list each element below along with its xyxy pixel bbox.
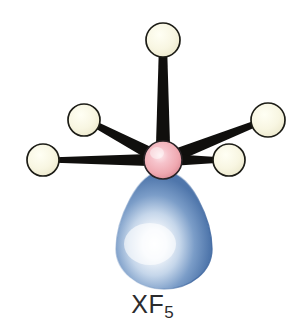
central-atom bbox=[144, 141, 182, 179]
formula-label: XF5 bbox=[0, 292, 305, 321]
central-atom-sphere bbox=[144, 141, 182, 179]
formula-base: XF bbox=[131, 290, 164, 318]
central-atom-highlight bbox=[150, 147, 164, 159]
outer-atom-lower-left bbox=[27, 144, 59, 176]
molecule-illustration bbox=[0, 0, 305, 335]
formula-subscript: 5 bbox=[164, 303, 173, 322]
outer-atom-sphere bbox=[251, 103, 285, 137]
outer-atom-upper-left bbox=[68, 104, 100, 136]
outer-atom-top bbox=[146, 23, 180, 57]
outer-atom-sphere bbox=[27, 144, 59, 176]
lone-pair-lobe-highlight bbox=[124, 223, 176, 265]
outer-atom-lower-right bbox=[213, 144, 245, 176]
molecular-geometry-figure: XF5 bbox=[0, 0, 305, 335]
outer-atom-upper-right bbox=[251, 103, 285, 137]
lone-pair-lobe bbox=[116, 171, 212, 289]
outer-atom-sphere bbox=[68, 104, 100, 136]
outer-atom-sphere bbox=[213, 144, 245, 176]
outer-atom-sphere bbox=[146, 23, 180, 57]
